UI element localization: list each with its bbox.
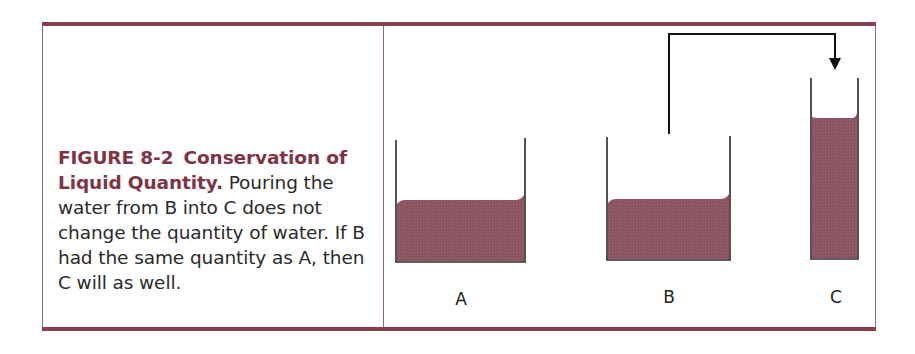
label-c: C — [830, 287, 842, 307]
label-b: B — [663, 287, 675, 307]
arrow-line — [669, 34, 835, 134]
beaker-c — [811, 78, 858, 259]
liquid-a — [397, 195, 524, 261]
label-a: A — [455, 289, 467, 309]
beaker-a — [396, 138, 525, 262]
arrowhead-icon — [829, 58, 841, 70]
beaker-b — [607, 136, 730, 260]
liquid-b — [608, 194, 729, 259]
liquid-c — [812, 113, 857, 258]
